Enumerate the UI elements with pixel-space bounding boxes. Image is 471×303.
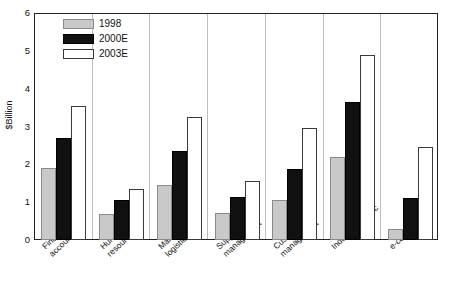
bar-1998-manufacturing-logistics: [157, 185, 172, 240]
bar-1998-human-resources: [99, 214, 114, 240]
legend-item-1998: 1998: [63, 19, 128, 29]
bar-2000e-supply-chain-management: [230, 197, 245, 241]
legend-label-1998: 1998: [99, 19, 121, 29]
y-tick-label: 5: [4, 46, 30, 55]
bar-2000e-finance-accounting: [56, 138, 71, 240]
legend-item-2000e: 2000E: [63, 34, 128, 44]
legend-label-2003e: 2003E: [99, 49, 128, 59]
legend-swatch-1998: [63, 19, 94, 29]
bar-2003e-customer-management: [302, 128, 317, 240]
legend-label-2000e: 2000E: [99, 34, 128, 44]
bar-2003e-manufacturing-logistics: [187, 117, 202, 240]
bar-2003e-supply-chain-management: [245, 181, 260, 240]
bar-1998-supply-chain-management: [215, 213, 230, 240]
bar-1998-customer-management: [272, 200, 287, 240]
bar-2000e-customer-management: [287, 169, 302, 240]
bar-1998-finance-accounting: [41, 168, 56, 240]
bar-1998-industry-specific: [330, 157, 345, 240]
bar-2000e-human-resources: [114, 200, 129, 240]
y-tick-label: 1: [4, 197, 30, 206]
bar-chart: $Billion 0123456 1998 2000E 2003E Financ…: [0, 0, 471, 303]
chart-legend: 1998 2000E 2003E: [63, 19, 128, 59]
y-tick-label: 3: [4, 122, 30, 131]
legend-item-2003e: 2003E: [63, 49, 128, 59]
y-tick-label: 2: [4, 159, 30, 168]
y-axis-title: $Billion: [4, 85, 14, 145]
legend-swatch-2003e: [63, 49, 94, 59]
bar-2003e-industry-specific: [360, 55, 375, 240]
bar-2003e-finance-accounting: [71, 106, 86, 240]
legend-swatch-2000e: [63, 34, 94, 44]
y-tick-label: 4: [4, 84, 30, 93]
bar-2000e-e-commerce: [403, 198, 418, 240]
y-tick-label: 6: [4, 8, 30, 17]
bar-1998-e-commerce: [388, 229, 403, 240]
y-tick-label: 0: [4, 235, 30, 244]
bar-2003e-human-resources: [129, 189, 144, 240]
bar-2000e-manufacturing-logistics: [172, 151, 187, 240]
bar-2000e-industry-specific: [345, 102, 360, 240]
bar-2003e-e-commerce: [418, 147, 433, 240]
